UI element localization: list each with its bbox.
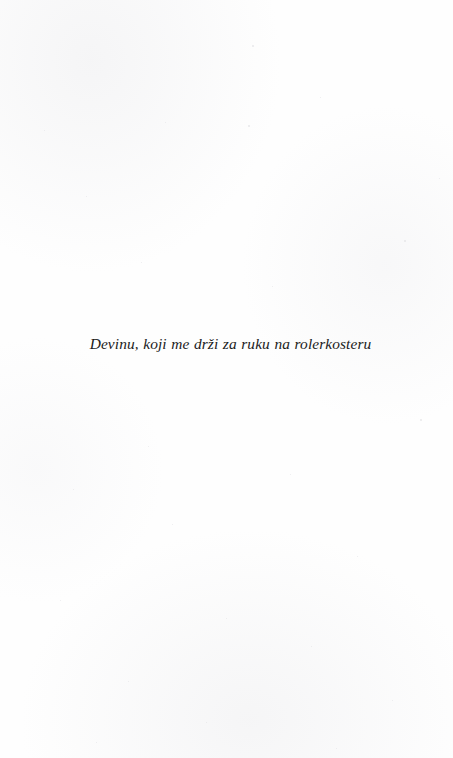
scan-speck <box>60 600 61 601</box>
scan-speck <box>44 130 45 131</box>
dedication-text: Devinu, koji me drži za ruku na rolerkos… <box>90 334 372 354</box>
scan-speck <box>252 45 254 47</box>
scan-speck <box>392 700 393 701</box>
scan-speck <box>320 97 321 98</box>
scan-speck <box>141 262 142 263</box>
paper-texture-overlay <box>0 0 453 758</box>
scan-speck <box>172 524 173 525</box>
scan-speck <box>86 196 87 197</box>
scan-speck <box>357 556 358 557</box>
dedication-page: Devinu, koji me drži za ruku na rolerkos… <box>0 0 453 758</box>
scan-speck <box>248 125 250 127</box>
scan-speck <box>148 446 149 447</box>
scan-speck <box>206 722 207 723</box>
scan-speck <box>311 646 312 647</box>
scan-speck <box>420 419 422 421</box>
scan-speck <box>404 240 406 242</box>
scan-speck <box>226 618 227 619</box>
scan-speck <box>336 748 337 749</box>
scan-speck <box>290 474 291 475</box>
scan-speck <box>272 286 273 287</box>
scan-speckle-layer <box>0 0 453 758</box>
scan-speck <box>128 681 129 682</box>
scan-speck <box>439 178 440 179</box>
scan-speck <box>96 742 97 743</box>
scan-speck <box>165 122 166 123</box>
scan-speck <box>73 489 74 490</box>
dedication-block: Devinu, koji me drži za ruku na rolerkos… <box>0 334 453 354</box>
